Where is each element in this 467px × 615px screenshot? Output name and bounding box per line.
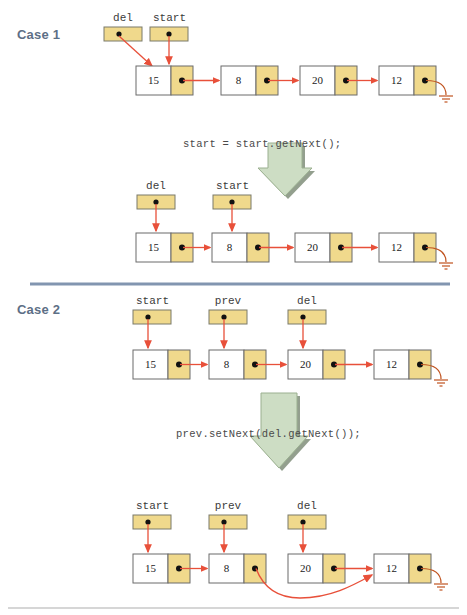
pointer-label-prev-c2b: prev bbox=[207, 295, 249, 307]
pointer-label-prev-c2a: prev bbox=[207, 500, 249, 512]
node-value-12-c2b: 12 bbox=[374, 358, 409, 370]
pointer-box-prev-c2a bbox=[209, 515, 247, 529]
node-value-8-c2b: 8 bbox=[209, 358, 244, 370]
node-value-20-c1b: 20 bbox=[300, 74, 335, 86]
node-value-15-c2b: 15 bbox=[133, 358, 168, 370]
case-2-label: Case 2 bbox=[17, 302, 60, 317]
pointer-box-start-c2b bbox=[133, 310, 171, 324]
node-value-8-c1b: 8 bbox=[221, 74, 256, 86]
pointer-label-start-c1b: start bbox=[147, 12, 192, 24]
pointer-label-del-c1b: del bbox=[104, 12, 142, 24]
pointer-label-del-c2b: del bbox=[288, 295, 326, 307]
pointer-box-del-c2a bbox=[288, 515, 326, 529]
pointer-label-start-c1a: start bbox=[210, 180, 255, 192]
pointer-box-prev-c2b bbox=[209, 310, 247, 324]
diagram-svg bbox=[0, 0, 467, 615]
node-value-15-c2a: 15 bbox=[133, 562, 168, 574]
node-value-8-c2a: 8 bbox=[209, 562, 244, 574]
pointer-label-del-c2a: del bbox=[288, 500, 326, 512]
node-value-15-c1b: 15 bbox=[136, 74, 171, 86]
case-1-code: start = start.getNext(); bbox=[183, 138, 341, 150]
transition-arrow-c1 bbox=[258, 143, 315, 199]
node-value-8-c1a: 8 bbox=[212, 241, 247, 253]
node-value-20-c2a: 20 bbox=[288, 562, 323, 574]
node-value-20-c1a: 20 bbox=[295, 241, 330, 253]
pointer-label-start-c2a: start bbox=[130, 500, 175, 512]
node-value-12-c1b: 12 bbox=[379, 74, 414, 86]
node-value-12-c2a: 12 bbox=[374, 562, 409, 574]
pointer-box-del-c2b bbox=[288, 310, 326, 324]
pointer-box-start-c2a bbox=[133, 515, 171, 529]
node-value-15-c1a: 15 bbox=[136, 241, 171, 253]
case-1-label: Case 1 bbox=[17, 27, 60, 42]
node-value-20-c2b: 20 bbox=[288, 358, 323, 370]
case-2-code: prev.setNext(del.getNext()); bbox=[176, 428, 361, 440]
diagram-canvas: Case 1 Case 2 start = start.getNext(); p… bbox=[0, 0, 467, 615]
node-value-12-c1a: 12 bbox=[379, 241, 414, 253]
pointer-label-start-c2b: start bbox=[130, 295, 175, 307]
pointer-label-del-c1a: del bbox=[137, 180, 175, 192]
